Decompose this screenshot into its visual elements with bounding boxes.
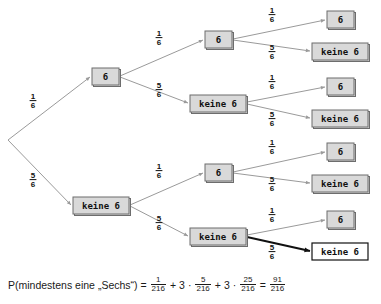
branch-probability-label: 56 <box>269 110 276 129</box>
formula-operator: + <box>215 279 221 291</box>
formula-multiplication-dot: · <box>188 279 192 291</box>
node-label: keine 6 <box>82 201 120 211</box>
fraction-numerator: 1 <box>270 73 275 82</box>
node-six[interactable]: 6 <box>92 68 121 87</box>
node-label: 6 <box>338 15 343 25</box>
arrowhead-icon <box>321 219 325 223</box>
branch-line <box>247 104 310 118</box>
formula-fraction: 25216 <box>240 276 255 294</box>
branch-probability-label: 56 <box>269 175 276 194</box>
tree-nodes: 6keine 66keine 66keine 66keine 66keine 6… <box>73 11 370 260</box>
fraction-denominator: 6 <box>270 184 275 193</box>
fraction-denominator: 6 <box>270 82 275 91</box>
formula-fraction: 1216 <box>151 276 166 294</box>
node-six[interactable]: 6 <box>205 164 234 183</box>
node-not-six[interactable]: keine 6 <box>312 243 368 260</box>
branch-probability-label: 16 <box>269 73 276 92</box>
fraction-denominator: 216 <box>240 284 255 293</box>
branch-probability-label: 16 <box>269 6 276 25</box>
branch-probability-label: 56 <box>156 81 163 100</box>
node-not-six[interactable]: keine 6 <box>312 175 370 194</box>
fraction-numerator: 1 <box>157 29 162 38</box>
branch-line <box>8 77 90 140</box>
branch-line <box>8 140 71 205</box>
probability-tree-diagram: 1656165616561656165616561656 6keine 66ke… <box>0 0 381 270</box>
arrowhead-icon <box>321 86 325 90</box>
branch-line <box>233 152 325 172</box>
formula-multiplication-dot: · <box>233 279 237 291</box>
formula-operator: + <box>170 279 176 291</box>
tree-edge-probability-labels: 1656165616561656165616561656 <box>30 6 276 262</box>
fraction-denominator: 6 <box>270 52 275 61</box>
tree-branch <box>8 77 90 140</box>
formula-lead: P(mindestens eine „Sechs“) = <box>8 279 147 291</box>
node-not-six[interactable]: keine 6 <box>312 43 370 62</box>
formula-coefficient: 3 <box>224 279 230 291</box>
tree-branch <box>247 237 310 252</box>
node-six[interactable]: 6 <box>327 211 356 230</box>
fraction-denominator: 6 <box>270 15 275 24</box>
tree-branch <box>120 77 188 103</box>
fraction-numerator: 91 <box>272 276 283 284</box>
node-label: 6 <box>216 35 221 45</box>
branch-line <box>130 173 203 205</box>
tree-branch <box>233 151 325 172</box>
tree-branch <box>233 19 325 39</box>
branch-probability-label: 56 <box>30 171 37 190</box>
fraction-numerator: 5 <box>200 276 206 284</box>
fraction-denominator: 6 <box>270 147 275 156</box>
node-label: keine 6 <box>321 247 359 257</box>
branch-probability-label: 56 <box>269 243 276 262</box>
tree-branch <box>120 40 203 76</box>
branch-probability-label: 16 <box>30 92 37 111</box>
node-label: keine 6 <box>321 114 359 124</box>
fraction-denominator: 6 <box>157 38 162 47</box>
fraction-numerator: 5 <box>157 81 162 90</box>
branch-line <box>120 77 188 103</box>
fraction-denominator: 6 <box>157 90 162 99</box>
node-label: keine 6 <box>321 47 359 57</box>
fraction-denominator: 6 <box>157 171 162 180</box>
tree-branch <box>8 140 71 205</box>
node-label: 6 <box>103 72 108 82</box>
branch-probability-label: 16 <box>269 206 276 225</box>
node-label: keine 6 <box>199 232 237 242</box>
tree-branch <box>130 173 203 205</box>
node-label: 6 <box>216 168 221 178</box>
formula-fraction: 91216 <box>270 276 285 294</box>
node-six[interactable]: 6 <box>205 31 234 50</box>
fraction-denominator: 6 <box>270 252 275 261</box>
branch-line <box>247 87 325 102</box>
arrowhead-icon <box>184 100 188 103</box>
fraction-denominator: 216 <box>151 284 166 293</box>
formula-equals: = <box>260 279 266 291</box>
arrowhead-icon <box>321 19 325 23</box>
tree-branch <box>247 104 310 119</box>
fraction-numerator: 5 <box>270 243 275 252</box>
node-not-six[interactable]: keine 6 <box>190 95 248 114</box>
fraction-numerator: 5 <box>31 171 36 180</box>
fraction-numerator: 5 <box>270 175 275 184</box>
tree-branch <box>247 219 325 235</box>
branch-probability-label: 56 <box>156 214 163 233</box>
fraction-numerator: 5 <box>270 110 275 119</box>
branch-probability-label: 16 <box>269 138 276 157</box>
fraction-numerator: 1 <box>155 276 161 284</box>
node-six[interactable]: 6 <box>327 78 356 97</box>
fraction-denominator: 6 <box>270 119 275 128</box>
fraction-numerator: 1 <box>270 6 275 15</box>
node-six[interactable]: 6 <box>327 143 356 162</box>
fraction-numerator: 5 <box>270 43 275 52</box>
fraction-denominator: 216 <box>270 284 285 293</box>
node-not-six[interactable]: keine 6 <box>73 197 131 216</box>
node-label: 6 <box>338 215 343 225</box>
fraction-numerator: 5 <box>157 214 162 223</box>
node-six[interactable]: 6 <box>327 11 356 30</box>
fraction-numerator: 1 <box>31 92 36 101</box>
branch-line <box>120 40 203 76</box>
branch-line <box>233 20 325 39</box>
node-not-six[interactable]: keine 6 <box>312 110 370 129</box>
fraction-denominator: 6 <box>270 215 275 224</box>
node-label: 6 <box>338 82 343 92</box>
node-not-six[interactable]: keine 6 <box>190 228 248 247</box>
